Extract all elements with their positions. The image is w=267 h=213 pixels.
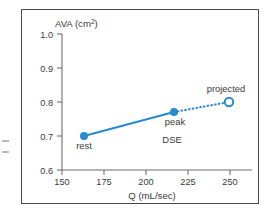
ava-vs-flow-chart: 1.0 0.9 0.8 0.7 0.6 150 175 200 225 250 … xyxy=(0,0,267,213)
data-point-peak xyxy=(170,108,178,116)
y-tick-label-0.6: 0.6 xyxy=(40,166,53,176)
data-point-rest xyxy=(80,132,88,140)
y-tick-label-1.0: 1.0 xyxy=(40,30,53,40)
annotation-peak: peak xyxy=(165,116,186,127)
y-tick-label-0.8: 0.8 xyxy=(40,98,53,108)
annotation-projected: projected xyxy=(207,83,246,94)
y-tick-label-0.7: 0.7 xyxy=(40,132,53,142)
annotation-rest: rest xyxy=(76,140,92,151)
figure-root: 1.0 0.9 0.8 0.7 0.6 150 175 200 225 250 … xyxy=(0,0,267,213)
x-tick-label-250: 250 xyxy=(222,177,237,187)
x-tick-label-175: 175 xyxy=(96,177,111,187)
x-tick-label-150: 150 xyxy=(54,177,69,187)
data-point-projected xyxy=(225,98,233,106)
y-axis-title-base: AVA (cm xyxy=(55,18,91,29)
x-tick-label-200: 200 xyxy=(138,177,153,187)
series-line-projection xyxy=(174,102,229,112)
x-tick-label-225: 225 xyxy=(180,177,195,187)
x-axis-title: Q (mL/sec) xyxy=(128,190,175,201)
y-axis-title-tail: ) xyxy=(95,18,98,29)
y-axis-title: AVA (cm2) xyxy=(55,18,98,29)
y-tick-label-0.9: 0.9 xyxy=(40,64,53,74)
series-line-measured xyxy=(84,112,174,136)
annotation-dse: DSE xyxy=(162,134,181,145)
